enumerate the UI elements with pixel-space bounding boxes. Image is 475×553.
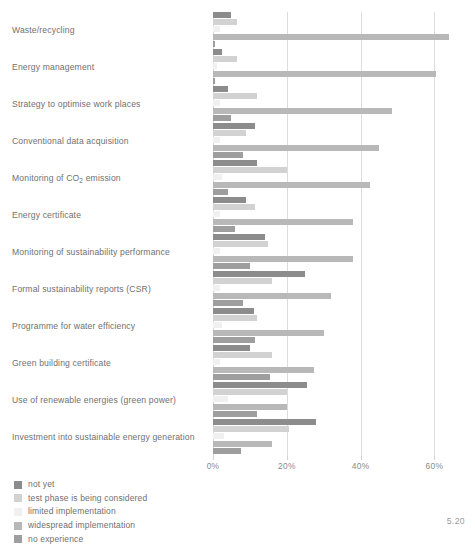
bar [213, 433, 224, 439]
bar-fill [213, 63, 217, 69]
bar [213, 71, 436, 77]
bar [213, 204, 255, 210]
bar [213, 241, 268, 247]
bar-fill [213, 352, 272, 358]
bar [213, 49, 222, 55]
legend-item: limited implementation [14, 505, 274, 519]
category-label: Green building certificate [12, 358, 206, 369]
bar [213, 374, 270, 380]
legend-label: not yet [28, 479, 55, 490]
category-label: Energy certificate [12, 210, 206, 221]
bar [213, 12, 231, 18]
bar-fill [213, 152, 243, 158]
bar [213, 441, 272, 447]
chart-legend: not yettest phase is being consideredlim… [14, 478, 274, 546]
bar-group [213, 123, 475, 160]
bar-groups [213, 12, 475, 456]
bar [213, 293, 331, 299]
bar [213, 78, 215, 84]
legend-swatch [14, 522, 22, 530]
bar-fill [213, 263, 250, 269]
bar-fill [213, 123, 255, 129]
bar [213, 411, 257, 417]
bar [213, 26, 220, 32]
bar-group [213, 271, 475, 308]
bar-fill [213, 278, 272, 284]
bar-fill [213, 189, 228, 195]
bar-fill [213, 234, 265, 240]
bar [213, 167, 287, 173]
category-label: Use of renewable energies (green power) [12, 395, 206, 406]
bar-fill [213, 49, 222, 55]
bar-fill [213, 448, 241, 454]
bar-fill [213, 145, 379, 151]
bar [213, 100, 220, 106]
bar-group [213, 160, 475, 197]
figure-number: 5.20 [447, 516, 465, 526]
bar-fill [213, 34, 449, 40]
bar [213, 330, 324, 336]
bar [213, 152, 243, 158]
bar-fill [213, 308, 254, 314]
bar-fill [213, 256, 353, 262]
x-tick-mark [361, 456, 362, 460]
category-label: Waste/recycling [12, 25, 206, 36]
bar-fill [213, 174, 222, 180]
bar [213, 19, 237, 25]
legend-label: limited implementation [28, 506, 116, 517]
bar [213, 93, 257, 99]
bar [213, 263, 250, 269]
bar-group [213, 86, 475, 123]
bar-fill [213, 182, 370, 188]
category-label: Monitoring of sustainability performance [12, 247, 206, 258]
plot-area [213, 12, 475, 456]
bar-group [213, 345, 475, 382]
bar-group [213, 197, 475, 234]
bar-fill [213, 374, 270, 380]
category-label: Energy management [12, 62, 206, 73]
x-tick-mark [287, 456, 288, 460]
bar-fill [213, 56, 237, 62]
bar-fill [213, 396, 228, 402]
bar [213, 130, 246, 136]
bar [213, 448, 241, 454]
bar-fill [213, 100, 220, 106]
grouped-bar-chart: Waste/recyclingEnergy managementStrategy… [0, 0, 475, 553]
bar-fill [213, 241, 268, 247]
bar [213, 160, 257, 166]
bar-fill [213, 12, 231, 18]
bar [213, 174, 222, 180]
legend-swatch [14, 494, 22, 502]
bar [213, 56, 237, 62]
legend-item: not yet [14, 478, 274, 492]
bar-fill [213, 315, 257, 321]
bar-group [213, 234, 475, 271]
bar [213, 182, 370, 188]
bar [213, 352, 272, 358]
bar [213, 189, 228, 195]
bar-fill [213, 41, 215, 47]
bar [213, 108, 392, 114]
bar-fill [213, 426, 289, 432]
category-label: Conventional data acquisition [12, 136, 206, 147]
bar-group [213, 12, 475, 49]
bar-fill [213, 330, 324, 336]
bar-fill [213, 433, 224, 439]
bar-fill [213, 130, 246, 136]
bar [213, 382, 307, 388]
bar [213, 300, 243, 306]
x-tick-label: 40% [352, 461, 370, 471]
bar [213, 115, 231, 121]
bar-fill [213, 108, 392, 114]
bar [213, 419, 316, 425]
bar [213, 123, 255, 129]
bar [213, 337, 255, 343]
bar-fill [213, 359, 220, 365]
bar [213, 359, 220, 365]
bar-fill [213, 86, 228, 92]
bar [213, 41, 215, 47]
bar-fill [213, 211, 220, 217]
x-tick-mark [434, 456, 435, 460]
legend-label: no experience [28, 534, 83, 545]
legend-item: test phase is being considered [14, 492, 274, 506]
